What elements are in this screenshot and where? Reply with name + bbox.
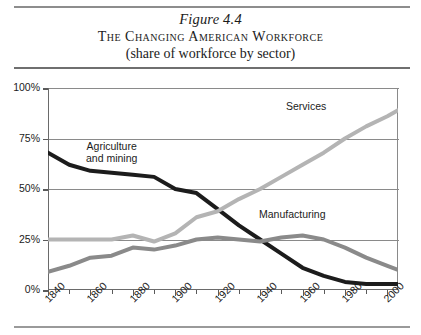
series-label-agriculture-line2: and mining — [86, 152, 137, 164]
series-label-services-text: Services — [286, 100, 326, 112]
series-label-manufacturing-text: Manufacturing — [259, 208, 326, 220]
figure-container: Figure 4.4 The Changing American Workfor… — [0, 0, 421, 335]
series-label-agriculture-line1: Agriculture — [86, 140, 137, 152]
x-tick-minor — [324, 290, 325, 294]
x-tick-minor — [154, 290, 155, 294]
y-tick-label: 25% — [6, 233, 40, 245]
series-line-services — [48, 110, 398, 241]
x-tick-minor — [196, 290, 197, 294]
series-label-agriculture: Agriculture and mining — [86, 140, 137, 164]
y-tick-label: 50% — [6, 182, 40, 194]
figure-title-block: Figure 4.4 The Changing American Workfor… — [0, 11, 421, 62]
series-line-agriculture-and-mining — [48, 153, 398, 284]
figure-title: The Changing American Workforce — [0, 28, 421, 45]
series-lines — [48, 88, 398, 290]
bottom-rule — [14, 326, 410, 328]
y-tick-label: 100% — [6, 81, 40, 93]
figure-subtitle: (share of workforce by sector) — [0, 45, 421, 62]
top-rule — [14, 6, 410, 8]
y-tick-label: 0% — [6, 283, 40, 295]
x-tick-minor — [366, 290, 367, 294]
series-label-manufacturing: Manufacturing — [259, 208, 326, 220]
x-tick-minor — [281, 290, 282, 294]
series-label-services: Services — [286, 100, 326, 112]
x-tick-minor — [112, 290, 113, 294]
title-divider-rule — [14, 67, 410, 69]
x-tick-minor — [69, 290, 70, 294]
figure-number: Figure 4.4 — [0, 11, 421, 28]
y-tick-label: 75% — [6, 132, 40, 144]
x-tick-minor — [239, 290, 240, 294]
